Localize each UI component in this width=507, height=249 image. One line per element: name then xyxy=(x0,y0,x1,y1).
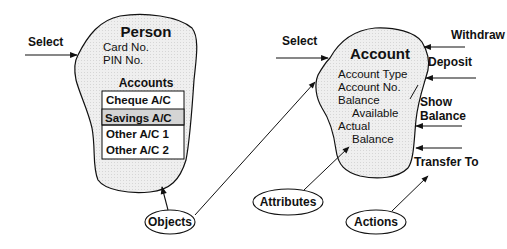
person-field-card-no: Card No. xyxy=(103,41,149,53)
account-row-cheque: Cheque A/C xyxy=(106,94,171,106)
account-field-type: Account Type xyxy=(338,68,407,80)
actions-arrow xyxy=(392,176,428,211)
actions-callout: Actions xyxy=(346,176,428,234)
action-withdraw-label: Withdraw xyxy=(451,28,506,42)
accounts-table: Cheque A/C Savings A/C Other A/C 1 Other… xyxy=(102,91,184,159)
account-row-savings: Savings A/C xyxy=(105,112,172,124)
oo-diagram: Person Card No. PIN No. Accounts Cheque … xyxy=(0,0,507,249)
objects-label: Objects xyxy=(148,215,192,229)
account-field-balance: Balance xyxy=(338,94,380,106)
account-field-no: Account No. xyxy=(338,81,401,93)
action-deposit-label: Deposit xyxy=(428,55,472,69)
objects-to-person-arrow xyxy=(162,187,168,210)
actions-label: Actions xyxy=(354,215,398,229)
account-title: Account xyxy=(350,45,410,62)
person-title: Person xyxy=(121,23,172,40)
action-transfer-label: Transfer To xyxy=(414,155,478,169)
person-object: Person Card No. PIN No. Accounts Cheque … xyxy=(25,15,197,193)
person-field-pin-no: PIN No. xyxy=(103,54,143,66)
attributes-label: Attributes xyxy=(260,195,317,209)
account-object: Account Account Type Account No. Balance… xyxy=(276,28,506,178)
account-field-actual-balance: Balance xyxy=(352,133,394,145)
action-show-label: Show xyxy=(420,95,453,109)
attributes-callout: Attributes xyxy=(253,147,349,215)
account-select-label: Select xyxy=(282,34,317,48)
action-show-balance-label: Balance xyxy=(420,109,466,123)
accounts-heading: Accounts xyxy=(119,76,174,90)
account-field-actual: Actual xyxy=(338,120,370,132)
account-row-other-2: Other A/C 2 xyxy=(106,144,169,156)
account-field-available: Available xyxy=(352,107,398,119)
attributes-arrow xyxy=(304,147,349,190)
person-select-label: Select xyxy=(28,35,63,49)
account-row-other-1: Other A/C 1 xyxy=(106,128,169,140)
